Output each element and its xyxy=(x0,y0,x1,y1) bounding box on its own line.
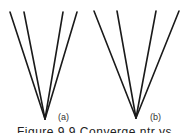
panel-a-converging-lines xyxy=(10,12,77,119)
converging-line xyxy=(117,11,136,118)
figure-caption: Figure 9.9 Converge ntr ys xyxy=(17,126,172,133)
panel-a-label: (a) xyxy=(58,113,69,122)
converging-line xyxy=(94,11,136,118)
converging-line xyxy=(136,11,156,118)
panel-b-converging-lines xyxy=(94,11,179,118)
panel-b-label: (b) xyxy=(150,113,161,122)
converging-line xyxy=(136,11,179,118)
